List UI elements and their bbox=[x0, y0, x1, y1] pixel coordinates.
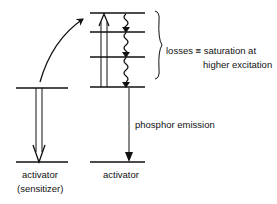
nonradiative-decay-wavy-arrows bbox=[122, 14, 130, 88]
sensitizer-label: activator bbox=[22, 169, 58, 180]
sensitizer-sublabel: (sensitizer) bbox=[17, 183, 63, 194]
phosphor-emission-arrow bbox=[125, 88, 133, 162]
losses-label-line2: higher excitation bbox=[203, 59, 272, 70]
energy-level-diagram: losses ≡ saturation at higher excitation… bbox=[0, 0, 277, 204]
sensitizer-de-excitation-double-arrow bbox=[33, 88, 45, 162]
phosphor-emission-label: phosphor emission bbox=[135, 119, 215, 130]
activator-label: activator bbox=[103, 169, 139, 180]
activator-excitation-double-arrow bbox=[99, 14, 109, 87]
energy-transfer-arrow bbox=[40, 19, 83, 82]
losses-label-line1: losses ≡ saturation at bbox=[166, 45, 256, 56]
losses-brace bbox=[155, 11, 162, 79]
